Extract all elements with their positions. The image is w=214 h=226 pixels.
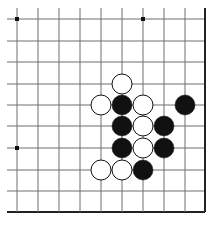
white-stone[interactable] [133, 95, 153, 115]
star-point-icon [15, 17, 19, 21]
black-stone[interactable] [175, 95, 195, 115]
black-stone[interactable] [112, 95, 132, 115]
white-stone[interactable] [112, 160, 132, 180]
star-point-icon [141, 17, 145, 21]
white-stone[interactable] [133, 138, 153, 158]
black-stone[interactable] [154, 138, 174, 158]
white-stone[interactable] [112, 74, 132, 94]
white-stone[interactable] [91, 95, 111, 115]
go-board[interactable] [0, 0, 214, 226]
black-stone[interactable] [112, 116, 132, 136]
star-point-icon [15, 146, 19, 150]
white-stone[interactable] [133, 116, 153, 136]
black-stone[interactable] [133, 160, 153, 180]
black-stone[interactable] [154, 116, 174, 136]
white-stone[interactable] [91, 160, 111, 180]
black-stone[interactable] [112, 138, 132, 158]
